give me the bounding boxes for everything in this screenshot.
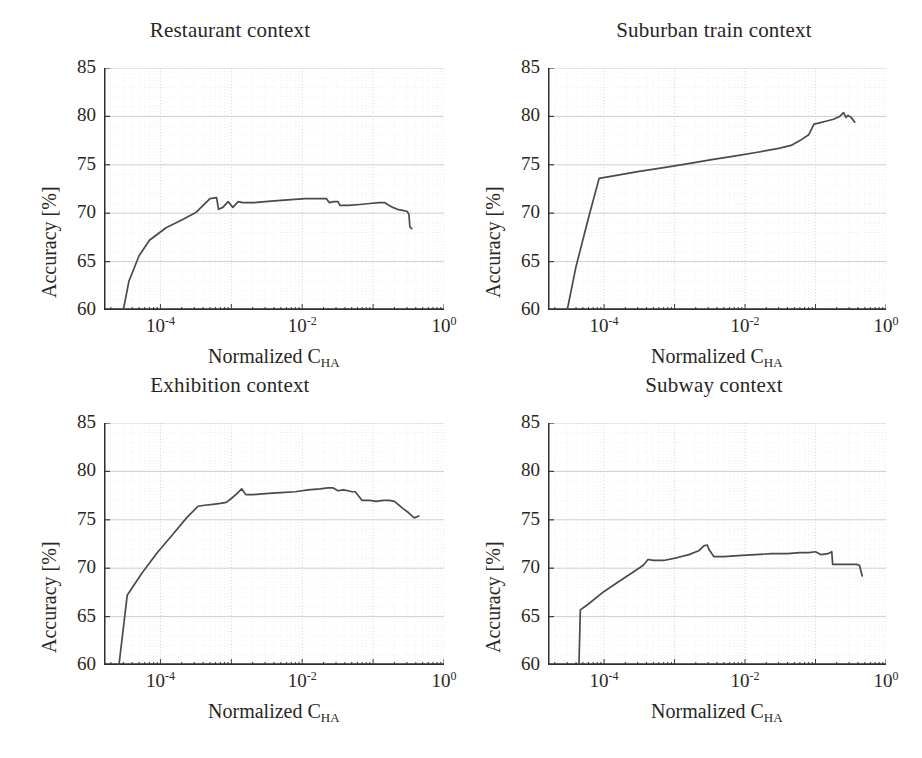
y-tick-label: 80 (506, 459, 540, 481)
x-axis-label-subscript: HA (321, 355, 340, 370)
x-axis-label-subscript: HA (764, 710, 783, 725)
x-axis-label-main: Normalized C (208, 700, 321, 722)
y-tick-label: 85 (506, 56, 540, 78)
x-axis-label-subway: Normalized CHA (548, 700, 886, 726)
axes-suburban-train (548, 68, 886, 310)
x-tick-label: 10-4 (574, 314, 634, 337)
y-tick-label: 65 (62, 605, 96, 627)
y-tick-label: 85 (62, 56, 96, 78)
y-tick-label: 60 (506, 298, 540, 320)
x-tick-label: 10-2 (272, 314, 332, 337)
x-tick-label: 100 (856, 669, 916, 692)
y-axis-label-suburban-train: Accuracy [%] (482, 186, 505, 298)
x-axis-label-main: Normalized C (651, 700, 764, 722)
panel-suburban-train: Suburban train context Accuracy [%] Norm… (444, 18, 922, 378)
y-tick-label: 70 (62, 556, 96, 578)
x-axis-label-subscript: HA (321, 710, 340, 725)
x-axis-label-suburban-train: Normalized CHA (548, 345, 886, 371)
y-tick-label: 85 (506, 411, 540, 433)
y-tick-label: 60 (62, 298, 96, 320)
x-axis-label-subscript: HA (764, 355, 783, 370)
x-tick-label: 100 (856, 314, 916, 337)
y-tick-label: 80 (62, 459, 96, 481)
y-axis-label-restaurant: Accuracy [%] (38, 186, 61, 298)
plot-area-exhibition (104, 423, 444, 665)
y-tick-label: 60 (506, 653, 540, 675)
x-tick-label: 10-2 (715, 669, 775, 692)
y-tick-label: 75 (506, 153, 540, 175)
x-tick-label: 10-2 (715, 314, 775, 337)
panel-title-subway: Subway context (504, 373, 922, 398)
y-tick-label: 70 (506, 201, 540, 223)
x-axis-label-exhibition: Normalized CHA (104, 700, 444, 726)
y-tick-label: 70 (506, 556, 540, 578)
axes-subway (548, 423, 886, 665)
panel-title-exhibition: Exhibition context (20, 373, 440, 398)
y-tick-label: 85 (62, 411, 96, 433)
x-tick-label: 10-4 (130, 669, 190, 692)
y-tick-label: 70 (62, 201, 96, 223)
panel-subway: Subway context Accuracy [%] Normalized C… (444, 373, 922, 733)
y-axis-label-subway: Accuracy [%] (482, 541, 505, 653)
x-tick-label: 10-4 (574, 669, 634, 692)
figure-accuracy-vs-normalized-cha: Restaurant context Accuracy [%] Normaliz… (0, 0, 922, 758)
y-tick-label: 75 (62, 508, 96, 530)
y-tick-label: 60 (62, 653, 96, 675)
y-tick-label: 80 (62, 104, 96, 126)
axes-restaurant (104, 68, 444, 310)
x-tick-label: 10-4 (130, 314, 190, 337)
panel-restaurant: Restaurant context Accuracy [%] Normaliz… (0, 18, 461, 378)
panel-title-suburban-train: Suburban train context (504, 18, 922, 43)
y-tick-label: 65 (506, 250, 540, 272)
x-axis-label-main: Normalized C (651, 345, 764, 367)
plot-area-subway (548, 423, 886, 665)
y-tick-label: 75 (506, 508, 540, 530)
y-axis-label-exhibition: Accuracy [%] (38, 541, 61, 653)
panel-exhibition: Exhibition context Accuracy [%] Normaliz… (0, 373, 461, 733)
y-tick-label: 80 (506, 104, 540, 126)
plot-area-restaurant (104, 68, 444, 310)
x-tick-label: 10-2 (272, 669, 332, 692)
plot-area-suburban-train (548, 68, 886, 310)
axes-exhibition (104, 423, 444, 665)
y-tick-label: 75 (62, 153, 96, 175)
panel-title-restaurant: Restaurant context (20, 18, 440, 43)
x-axis-label-restaurant: Normalized CHA (104, 345, 444, 371)
y-tick-label: 65 (506, 605, 540, 627)
y-tick-label: 65 (62, 250, 96, 272)
x-axis-label-main: Normalized C (208, 345, 321, 367)
